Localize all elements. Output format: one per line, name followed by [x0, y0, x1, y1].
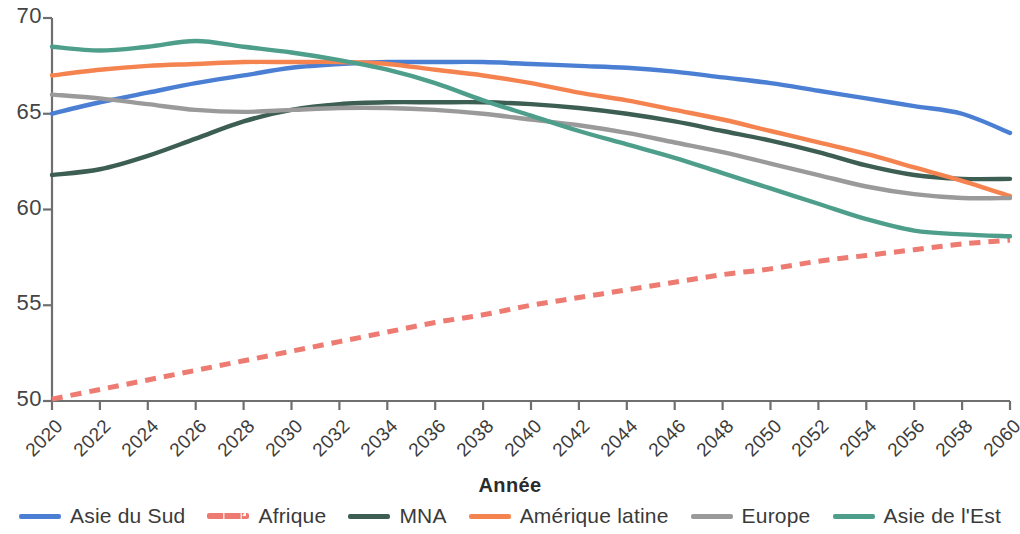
legend-swatch-icon: [469, 514, 511, 519]
legend-label: Europe: [742, 504, 811, 528]
series-line: [52, 95, 1010, 199]
legend-swatch-icon: [691, 514, 733, 519]
legend-swatch-icon: [19, 514, 61, 519]
y-tick-label: 65: [0, 101, 42, 123]
line-chart: 708065605550 202020222024202620282030203…: [0, 0, 1020, 534]
series-line: [52, 62, 1010, 133]
y-tick-label: 60: [0, 197, 42, 219]
legend-item[interactable]: Europe: [691, 504, 811, 528]
y-tick-label: 55: [0, 292, 42, 314]
y-tick-label: 50: [0, 388, 42, 410]
x-axis-title: Année: [0, 474, 1020, 497]
legend-swatch-icon: [207, 513, 249, 519]
series-line: [52, 240, 1010, 399]
legend-item[interactable]: Asie de l'Est: [833, 504, 1002, 528]
legend-label: Asie du Sud: [70, 504, 185, 528]
legend-label: Afrique: [258, 504, 326, 528]
legend-label: Amérique latine: [520, 504, 669, 528]
legend-item[interactable]: Amérique latine: [469, 504, 669, 528]
legend-item[interactable]: Afrique: [207, 504, 326, 528]
legend-swatch-icon: [348, 514, 390, 519]
legend-label: Asie de l'Est: [884, 504, 1002, 528]
legend-swatch-icon: [833, 514, 875, 519]
chart-legend: Asie du SudAfriqueMNAAmérique latineEuro…: [0, 504, 1020, 528]
legend-item[interactable]: Asie du Sud: [19, 504, 185, 528]
legend-item[interactable]: MNA: [348, 504, 446, 528]
y-tick-label: 70: [0, 5, 42, 27]
legend-label: MNA: [399, 504, 446, 528]
